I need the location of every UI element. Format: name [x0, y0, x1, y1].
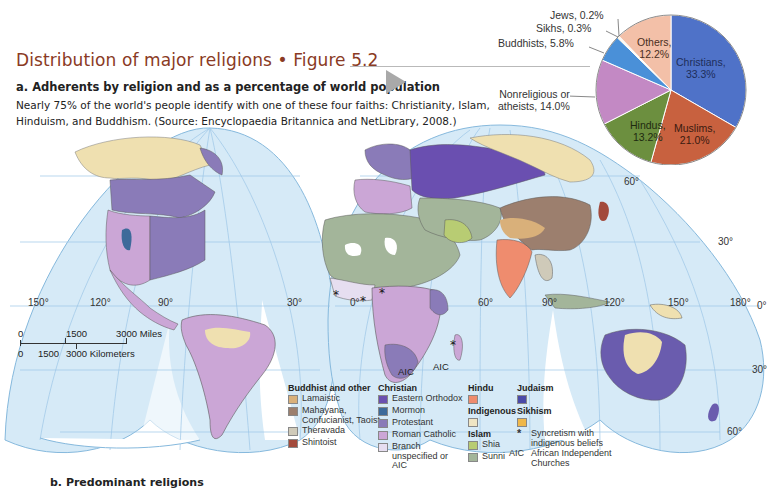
swatch-lamaistic: [288, 395, 298, 404]
legend-heading-sikhism: Sikhism: [517, 406, 627, 417]
swatch-branch-unspecified: [378, 443, 388, 452]
legend-item-branch-unspecified: Branch unspecified or AIC: [378, 442, 460, 471]
pie-label-others-pct: 12.2%: [637, 48, 671, 60]
lon-label-150e: 150°: [668, 297, 689, 308]
legend-label: Theravada: [302, 425, 345, 435]
map-scale: 0 1500 3000 Miles 0 1500 3000 Kilometers: [16, 328, 156, 368]
aic-annotation-1: AIC: [433, 361, 449, 372]
syncretism-star-4: *: [450, 340, 456, 350]
swatch-eastern-orthodox: [378, 395, 388, 404]
legend-item-roman-catholic: Roman Catholic: [378, 430, 463, 441]
pie-label-christians-name: Christians,: [676, 56, 726, 68]
scale-tick: [126, 338, 127, 344]
scale-km-0: 0: [18, 348, 23, 359]
swatch-hindu: [468, 395, 478, 404]
pie-label-others: Others, 12.2%: [637, 36, 671, 60]
swatch-shintoist: [288, 439, 298, 448]
pie-label-others-name: Others,: [637, 36, 671, 48]
legend-label: Mahayana, Confucianist, Taoist: [302, 405, 380, 425]
syncretism-star-3: *: [379, 288, 385, 298]
scale-km-3000: 3000 Kilometers: [66, 348, 135, 359]
swatch-sunni: [468, 453, 478, 462]
syncretism-star-icon: *: [517, 429, 521, 439]
pie-label-jews: Jews, 0.2%: [550, 9, 604, 21]
swatch-judaism: [517, 395, 527, 404]
lon-label-equator: 0°: [757, 300, 767, 311]
lon-label-0: 0°: [350, 297, 360, 308]
syncretism-star-1: *: [333, 290, 339, 300]
title-divider: [350, 66, 590, 67]
scale-bar-line: [20, 343, 126, 344]
legend-label: Protestant: [392, 417, 433, 427]
syncretism-star-2: *: [360, 296, 366, 306]
legend-heading-indigenous: Indigenous: [468, 406, 516, 417]
legend-item-aic: AIC African Independent Churches: [509, 449, 629, 468]
pie-label-sikhs: Sikhs, 0.3%: [536, 22, 591, 34]
legend-group-christian: Christian Eastern Orthodox Mormon Protes…: [378, 383, 463, 472]
lat-label-60s: 60°: [727, 426, 742, 437]
lat-label-60n: 60°: [624, 176, 639, 187]
legend-heading-hindu: Hindu: [468, 383, 516, 394]
legend-group-judaism-sikhism: Judaism Sikhism * Syncretism with indige…: [517, 383, 627, 469]
legend-label: Shia: [482, 439, 500, 449]
legend-item-mormon: Mormon: [378, 406, 463, 417]
legend-item-eastern-orthodox: Eastern Orthodox: [378, 394, 463, 405]
legend-label: Sunni: [482, 451, 505, 461]
land-europe-catholic: [354, 179, 412, 214]
legend-label: Roman Catholic: [392, 429, 456, 439]
subhead-a: a. Adherents by religion and as a percen…: [16, 80, 440, 94]
legend-label: Syncretism with indigenous beliefs: [531, 428, 603, 448]
swatch-theravada: [288, 427, 298, 436]
legend-item-syncretism: * Syncretism with indigenous beliefs: [517, 429, 627, 448]
legend-label: Lamaistic: [302, 393, 340, 403]
aic-annotation-2: AIC: [398, 366, 414, 377]
legend-label: Branch unspecified or AIC: [392, 441, 448, 470]
swatch-mahayana: [288, 407, 298, 416]
legend-label: African Independent Churches: [531, 448, 612, 468]
scale-miles-3000: 3000 Miles: [116, 328, 162, 339]
lon-label-120e: 120°: [604, 297, 625, 308]
pie-label-christians-pct: 33.3%: [676, 68, 726, 80]
play-arrow-icon[interactable]: [386, 70, 406, 94]
map-legend: Buddhist and other Lamaistic Mahayana, C…: [280, 383, 540, 478]
lon-label-30w: 30°: [287, 297, 302, 308]
scale-miles-1500: 1500: [66, 328, 87, 339]
pie-label-nonreligious-pct: atheists, 14.0%: [498, 100, 570, 112]
legend-label: Eastern Orthodox: [392, 393, 463, 403]
legend-label: Shintoist: [302, 437, 337, 447]
swatch-mormon: [378, 407, 388, 416]
lon-label-150w: 150°: [28, 297, 49, 308]
lon-label-90w: 90°: [158, 297, 173, 308]
figure-title: Distribution of major religions • Figure…: [16, 50, 379, 70]
swatch-indigenous: [468, 418, 478, 427]
lat-label-30n: 30°: [718, 236, 733, 247]
legend-item-protestant: Protestant: [378, 418, 463, 429]
aic-symbol: AIC: [509, 449, 524, 459]
scale-tick: [20, 340, 21, 346]
swatch-roman-catholic: [378, 431, 388, 440]
subhead-b: b. Predominant religions: [50, 476, 204, 489]
lon-label-180: 180°: [730, 297, 751, 308]
pie-label-nonreligious: Nonreligious or atheists, 14.0%: [498, 88, 570, 112]
scale-tick: [65, 338, 66, 344]
pie-label-nonreligious-name: Nonreligious or: [498, 88, 570, 100]
scale-km-1500: 1500: [38, 348, 59, 359]
lat-label-30s: 30°: [752, 364, 767, 375]
lon-label-120w: 120°: [90, 297, 111, 308]
pie-label-buddhists: Buddhists, 5.8%: [498, 37, 574, 49]
lon-label-60e: 60°: [478, 297, 493, 308]
swatch-sikhism: [517, 418, 527, 427]
legend-label: Mormon: [392, 405, 425, 415]
swatch-protestant: [378, 419, 388, 428]
pie-label-christians: Christians, 33.3%: [676, 56, 726, 80]
swatch-shia: [468, 441, 478, 450]
lon-label-90e: 90°: [542, 297, 557, 308]
legend-heading-judaism: Judaism: [517, 383, 627, 394]
scale-miles-0: 0: [18, 328, 23, 339]
